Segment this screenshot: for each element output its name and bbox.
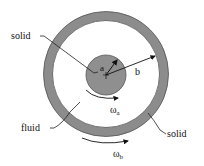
- outer-solid-label: solid: [167, 128, 186, 139]
- radius-a-label: a: [100, 63, 104, 73]
- inner-solid-label: solid: [11, 30, 30, 41]
- omega-b-label: ωb: [113, 148, 124, 161]
- outer-solid-leader: [148, 113, 166, 134]
- fluid-label: fluid: [21, 122, 40, 133]
- omega-b-rotation-arrow: [82, 138, 128, 143]
- radius-b-label: b: [135, 66, 140, 77]
- omega-a-subscript: a: [117, 109, 121, 117]
- omega-a-label: ωa: [110, 104, 121, 117]
- omega-b-subscript: b: [120, 153, 124, 161]
- cylinder-diagram: solid a b fluid solid ωa ωb: [0, 0, 204, 166]
